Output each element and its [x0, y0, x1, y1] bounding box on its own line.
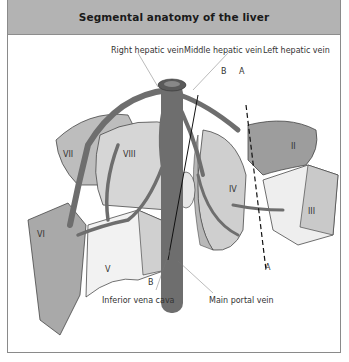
label-plane-b-bottom: B: [148, 278, 154, 287]
segment-label-v: V: [105, 265, 110, 274]
segment-iv-shape: [198, 130, 246, 250]
label-plane-a-top: A: [239, 67, 244, 76]
label-main-portal-vein: Main portal vein: [209, 296, 274, 305]
figure-title: Segmental anatomy of the liver: [79, 11, 269, 23]
figure-frame: Segmental anatomy of the liver: [7, 0, 341, 353]
label-middle-hepatic-vein: Middle hepatic vein: [184, 46, 262, 55]
label-inferior-vena-cava: Inferior vena cava: [102, 296, 175, 305]
segment-label-iv: IV: [229, 185, 237, 194]
title-bar: Segmental anatomy of the liver: [8, 0, 340, 35]
segment-label-iii: III: [308, 207, 315, 216]
label-plane-a-bottom: A: [265, 263, 270, 272]
segment-label-ii: II: [291, 142, 296, 151]
label-plane-b-top: B: [221, 67, 227, 76]
segment-label-vii: VII: [63, 150, 73, 159]
label-left-hepatic-vein: Left hepatic vein: [263, 46, 330, 55]
segment-vi-shape: [28, 203, 86, 335]
segment-label-vi: VI: [37, 230, 45, 239]
label-right-hepatic-vein: Right hepatic vein: [111, 46, 184, 55]
segment-label-viii: VIII: [123, 150, 136, 159]
liver-diagram: Right hepatic vein Middle hepatic vein L…: [8, 35, 340, 352]
